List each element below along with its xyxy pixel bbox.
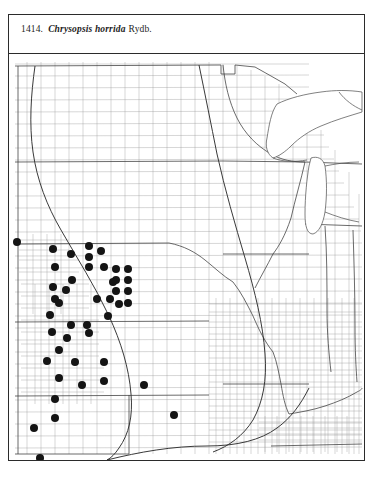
occurrence-dot bbox=[115, 300, 123, 308]
occurrence-dot bbox=[170, 411, 178, 419]
distribution-map-plate: 1414.Chrysopsis horridaRydb. bbox=[0, 0, 375, 477]
occurrence-dot bbox=[55, 374, 63, 382]
occurrence-dot bbox=[30, 424, 38, 432]
occurrence-dot bbox=[46, 311, 54, 319]
occurrence-dot bbox=[51, 414, 59, 422]
occurrence-dots-layer bbox=[13, 238, 178, 460]
great-lakes-layer bbox=[266, 91, 362, 235]
occurrence-dot bbox=[124, 299, 132, 307]
distribution-map-svg bbox=[9, 54, 364, 460]
species-name: Chrysopsis horrida bbox=[48, 24, 125, 34]
occurrence-dot bbox=[93, 295, 101, 303]
occurrence-dot bbox=[51, 263, 59, 271]
occurrence-dot bbox=[85, 242, 93, 250]
occurrence-dot bbox=[124, 287, 132, 295]
occurrence-dot bbox=[124, 265, 132, 273]
occurrence-dot bbox=[85, 329, 93, 337]
species-authority: Rydb. bbox=[129, 24, 152, 34]
occurrence-dot bbox=[85, 253, 93, 261]
occurrence-dot bbox=[67, 250, 75, 258]
occurrence-dot bbox=[104, 312, 112, 320]
occurrence-dot bbox=[71, 358, 79, 366]
occurrence-dot bbox=[51, 395, 59, 403]
range-boundary-south bbox=[107, 388, 309, 460]
occurrence-dot bbox=[48, 328, 56, 336]
occurrence-dot bbox=[68, 276, 76, 284]
map-viewport bbox=[9, 54, 364, 460]
occurrence-dot bbox=[100, 377, 108, 385]
occurrence-dot bbox=[83, 321, 91, 329]
occurrence-dot bbox=[112, 287, 120, 295]
occurrence-dot bbox=[109, 278, 117, 286]
occurrence-dot bbox=[124, 276, 132, 284]
plate-caption: 1414.Chrysopsis horridaRydb. bbox=[21, 24, 152, 34]
occurrence-dot bbox=[85, 263, 93, 271]
occurrence-dot bbox=[55, 299, 63, 307]
occurrence-dot bbox=[67, 321, 75, 329]
occurrence-dot bbox=[97, 247, 105, 255]
occurrence-dot bbox=[106, 295, 114, 303]
occurrence-dot bbox=[112, 265, 120, 273]
occurrence-dot bbox=[49, 283, 57, 291]
occurrence-dot bbox=[100, 358, 108, 366]
range-boundary-layer bbox=[31, 65, 309, 460]
occurrence-dot bbox=[100, 263, 108, 271]
range-boundary-west bbox=[31, 66, 132, 460]
occurrence-dot bbox=[43, 357, 51, 365]
occurrence-dot bbox=[49, 245, 57, 253]
occurrence-dot bbox=[55, 346, 63, 354]
caption-bar: 1414.Chrysopsis horridaRydb. bbox=[9, 15, 364, 54]
occurrence-dot bbox=[13, 238, 21, 246]
plate-number: 1414. bbox=[21, 24, 43, 34]
occurrence-dot bbox=[36, 454, 44, 460]
occurrence-dot bbox=[62, 286, 70, 294]
occurrence-dot bbox=[140, 381, 148, 389]
occurrence-dot bbox=[63, 334, 71, 342]
occurrence-dot bbox=[78, 381, 86, 389]
